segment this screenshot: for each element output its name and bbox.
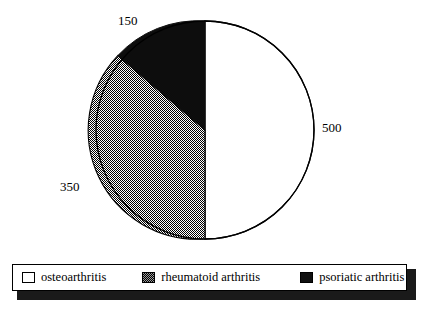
legend-item-psoriatic-arthritis[interactable]: psoriatic arthritis bbox=[300, 265, 404, 290]
pie-value-label-rheumatoid: 350 bbox=[60, 180, 80, 194]
legend-item-rheumatoid-arthritis[interactable]: rheumatoid arthritis bbox=[142, 265, 260, 290]
pie-value-label-psoriatic: 150 bbox=[118, 14, 138, 28]
legend: osteoarthritis rheumatoid arthritis psor… bbox=[12, 264, 416, 300]
pie-chart-plot-area: 150 500 350 bbox=[0, 0, 424, 258]
pie-chart-figure: 150 500 350 osteoarthritis rheumatoid ar… bbox=[0, 0, 424, 319]
legend-label-rheumatoid-arthritis: rheumatoid arthritis bbox=[161, 271, 260, 284]
legend-swatch-black-icon bbox=[300, 272, 313, 283]
legend-label-psoriatic-arthritis: psoriatic arthritis bbox=[319, 271, 404, 284]
legend-swatch-gray-icon bbox=[142, 272, 155, 283]
legend-swatch-white-icon bbox=[22, 272, 35, 283]
legend-box: osteoarthritis rheumatoid arthritis psor… bbox=[12, 264, 407, 291]
pie-slice-osteoarthritis[interactable] bbox=[205, 21, 314, 239]
pie-chart-svg bbox=[0, 0, 424, 258]
legend-item-osteoarthritis[interactable]: osteoarthritis bbox=[22, 265, 106, 290]
pie-value-label-osteoarthritis: 500 bbox=[322, 121, 342, 135]
legend-label-osteoarthritis: osteoarthritis bbox=[41, 271, 106, 284]
